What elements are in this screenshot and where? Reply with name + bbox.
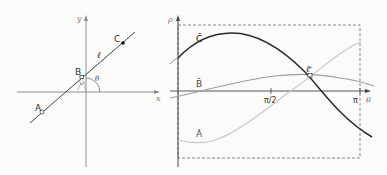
cartesian-panel: x y ℓ θ A B C	[17, 14, 161, 167]
hough-transform-figure: x y ℓ θ A B C θ ρ	[0, 0, 387, 175]
tick-label-pi: π	[353, 96, 358, 105]
tick-label-pi-half: π/2	[264, 96, 277, 105]
rho-axis-arrow-icon	[176, 15, 180, 21]
point-c-marker-icon	[121, 41, 125, 45]
y-axis-arrow-icon	[84, 15, 88, 21]
curve-b-bar-label: B̄	[196, 78, 202, 89]
parameter-space-panel: θ ρ π/2 π Ā B̄ C̄ ℓ̄	[167, 15, 374, 167]
theta-label: θ	[95, 75, 100, 83]
theta-axis-arrow-icon	[365, 89, 371, 93]
theta-axis-label: θ	[366, 96, 371, 105]
curve-c-bar-label: C̄	[196, 33, 202, 44]
x-axis-label: x	[156, 94, 161, 103]
curve-a-bar-label: Ā	[196, 129, 203, 139]
point-b-label: B	[75, 67, 81, 77]
point-a-label: A	[35, 103, 42, 113]
curve-c-bar	[178, 33, 372, 137]
y-axis-label: y	[76, 14, 82, 23]
dashed-bounds-box	[178, 25, 360, 158]
rho-axis-label: ρ	[167, 15, 173, 24]
normal-segment	[82, 77, 86, 92]
curve-a-bar	[178, 42, 361, 143]
line-l-label: ℓ	[97, 50, 101, 60]
point-c-label: C	[114, 34, 120, 44]
intersection-marker-icon	[308, 74, 312, 78]
curve-c-bar-stub	[170, 58, 178, 64]
intersection-label: ℓ̄	[306, 64, 313, 74]
small-angle-arc-icon	[78, 83, 82, 90]
